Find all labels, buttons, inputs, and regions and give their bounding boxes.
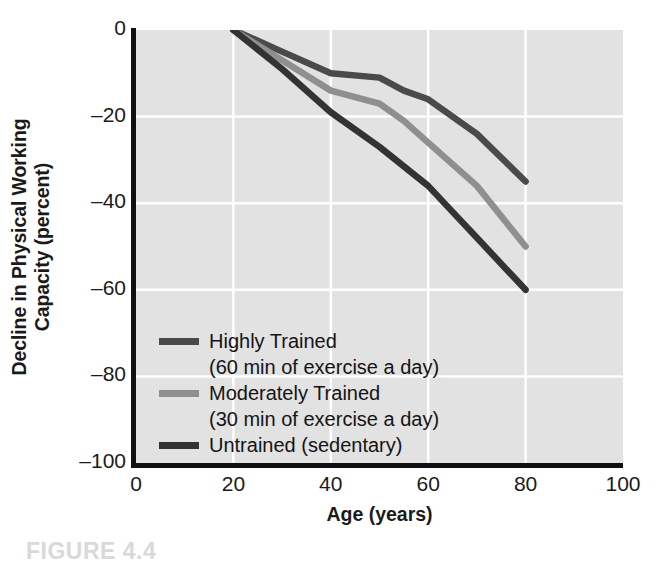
y-tick-label: –20: [6, 103, 126, 127]
legend-sublabel: (30 min of exercise a day): [209, 407, 439, 431]
legend-swatch-icon: [159, 442, 199, 449]
chart-legend: Highly Trained(60 min of exercise a day)…: [159, 328, 479, 458]
legend-sublabel-row-0: (60 min of exercise a day): [159, 354, 479, 380]
series-line-2: [233, 30, 525, 290]
x-tick-label: 100: [578, 472, 657, 496]
legend-label: Untrained (sedentary): [209, 433, 402, 457]
y-axis-title-line-1: Decline in Physical Working: [8, 118, 31, 375]
x-tick-label: 80: [481, 472, 571, 496]
data-series-lines: [233, 30, 525, 290]
legend-item-0: Highly Trained: [159, 328, 479, 354]
x-tick-label: 0: [91, 472, 181, 496]
figure-caption: FIGURE 4.4: [26, 538, 156, 563]
x-axis-line: [131, 463, 623, 468]
legend-label: Moderately Trained: [209, 381, 380, 405]
legend-swatch-icon: [159, 338, 199, 345]
legend-item-2: Untrained (sedentary): [159, 432, 479, 458]
x-tick-label: 40: [286, 472, 376, 496]
y-tick-label: 0: [6, 16, 126, 40]
x-tick-label: 60: [383, 472, 473, 496]
x-tick-label: 20: [188, 472, 278, 496]
y-axis-title: Decline in Physical Working Capacity (pe…: [8, 27, 54, 467]
legend-item-1: Moderately Trained: [159, 380, 479, 406]
legend-sublabel-row-1: (30 min of exercise a day): [159, 406, 479, 432]
y-tick-label: –80: [6, 362, 126, 386]
y-axis-line: [131, 28, 136, 465]
y-tick-label: –60: [6, 276, 126, 300]
legend-swatch-icon: [159, 390, 199, 397]
y-tick-label: –100: [6, 449, 126, 473]
y-tick-label: –40: [6, 189, 126, 213]
legend-sublabel: (60 min of exercise a day): [209, 355, 439, 379]
y-axis-title-line-2: Capacity (percent): [31, 163, 54, 331]
x-axis-title: Age (years): [136, 503, 623, 526]
legend-label: Highly Trained: [209, 329, 337, 353]
